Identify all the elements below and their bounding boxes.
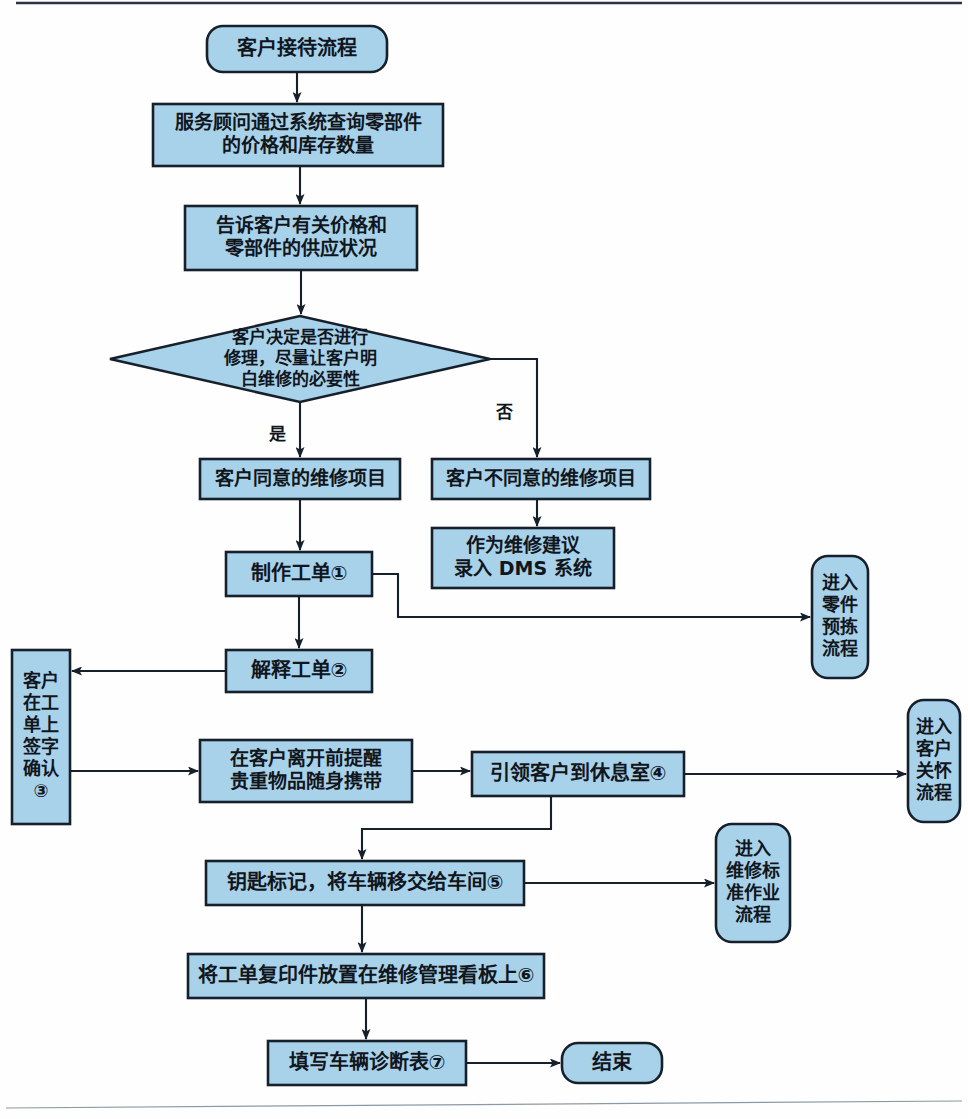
node-dms-advice[interactable]: 作为维修建议录入 DMS 系统 xyxy=(432,528,614,588)
node-label-decision-repair: 客户决定是否进行 xyxy=(231,327,368,347)
node-label-customer-sign: ③ xyxy=(33,780,48,801)
edge-labels: 是否 xyxy=(269,402,513,444)
nodes: 客户接待流程服务顾问通过系统查询零部件的价格和库存数量告诉客户有关价格和零部件的… xyxy=(12,26,960,1085)
node-label-tell-customer: 零部件的供应状况 xyxy=(224,237,377,259)
node-enter-customer-care[interactable]: 进入客户关怀流程 xyxy=(908,700,960,822)
node-tell-customer[interactable]: 告诉客户有关价格和零部件的供应状况 xyxy=(185,206,417,270)
node-key-tag-handover[interactable]: 钥匙标记，将车辆移交给车间⑤ xyxy=(206,861,524,905)
node-start[interactable]: 客户接待流程 xyxy=(207,26,387,72)
node-label-remind-valuables: 在客户离开前提醒 xyxy=(230,747,382,769)
bottom-rule xyxy=(6,1101,962,1108)
node-agree-items[interactable]: 客户同意的维修项目 xyxy=(200,459,400,499)
node-label-agree-items: 客户同意的维修项目 xyxy=(215,467,386,489)
node-disagree-items[interactable]: 客户不同意的维修项目 xyxy=(432,459,650,499)
node-label-query-parts: 的价格和库存数量 xyxy=(222,134,374,156)
node-customer-sign[interactable]: 客户在工单上签字确认③ xyxy=(12,650,70,824)
node-label-customer-sign: 客户 xyxy=(23,670,59,691)
node-label-create-workorder: 制作工单① xyxy=(251,561,348,585)
node-lead-lounge[interactable]: 引领客户到休息室④ xyxy=(472,752,684,796)
node-label-enter-customer-care: 进入 xyxy=(916,716,952,737)
connector-lead-to-key xyxy=(362,796,551,859)
node-enter-repair-standard[interactable]: 进入维修标准作业流程 xyxy=(716,824,790,942)
node-label-tell-customer: 告诉客户有关价格和 xyxy=(216,214,387,236)
node-label-enter-parts-picking: 零件 xyxy=(821,594,858,615)
node-query-parts[interactable]: 服务顾问通过系统查询零部件的价格和库存数量 xyxy=(153,104,443,166)
node-label-remind-valuables: 贵重物品随身携带 xyxy=(230,770,382,792)
node-remind-valuables[interactable]: 在客户离开前提醒贵重物品随身携带 xyxy=(200,740,412,802)
node-label-enter-repair-standard: 流程 xyxy=(735,904,771,925)
flowchart-canvas: 客户接待流程服务顾问通过系统查询零部件的价格和库存数量告诉客户有关价格和零部件的… xyxy=(0,0,968,1119)
node-label-enter-parts-picking: 预拣 xyxy=(822,616,858,637)
node-label-customer-sign: 签字 xyxy=(22,736,59,757)
node-label-enter-repair-standard: 维修标 xyxy=(726,860,780,881)
node-label-enter-repair-standard: 准作业 xyxy=(726,882,780,903)
flowchart-svg: 客户接待流程服务顾问通过系统查询零部件的价格和库存数量告诉客户有关价格和零部件的… xyxy=(0,0,968,1119)
node-label-enter-parts-picking: 流程 xyxy=(822,638,858,659)
node-label-enter-repair-standard: 进入 xyxy=(735,838,771,859)
node-label-customer-sign: 单上 xyxy=(23,714,59,735)
node-explain-workorder[interactable]: 解释工单② xyxy=(226,650,372,692)
node-end[interactable]: 结束 xyxy=(562,1043,662,1083)
node-label-start: 客户接待流程 xyxy=(236,36,357,60)
node-label-fill-diagnosis: 填写车辆诊断表⑦ xyxy=(289,1050,446,1074)
node-label-query-parts: 服务顾问通过系统查询零部件 xyxy=(175,111,422,133)
node-label-decision-repair: 白维修的必要性 xyxy=(241,369,360,389)
node-label-enter-customer-care: 流程 xyxy=(916,782,952,803)
node-label-key-tag-handover: 钥匙标记，将车辆移交给车间⑤ xyxy=(227,870,504,894)
node-label-end: 结束 xyxy=(592,1050,633,1074)
node-decision-repair[interactable]: 客户决定是否进行修理，尽量让客户明白维修的必要性 xyxy=(110,316,490,402)
node-label-enter-parts-picking: 进入 xyxy=(822,572,858,593)
node-enter-parts-picking[interactable]: 进入零件预拣流程 xyxy=(812,556,868,678)
node-label-dms-advice: 录入 DMS 系统 xyxy=(454,557,592,579)
node-label-enter-customer-care: 关怀 xyxy=(916,760,952,781)
node-label-disagree-items: 客户不同意的维修项目 xyxy=(446,467,636,489)
node-copy-to-board[interactable]: 将工单复印件放置在维修管理看板上⑥ xyxy=(188,954,544,998)
node-label-lead-lounge: 引领客户到休息室④ xyxy=(490,761,667,785)
node-label-customer-sign: 确认 xyxy=(23,758,60,779)
node-create-workorder[interactable]: 制作工单① xyxy=(226,552,372,596)
node-label-copy-to-board: 将工单复印件放置在维修管理看板上⑥ xyxy=(198,963,535,987)
node-label-explain-workorder: 解释工单② xyxy=(251,658,348,682)
node-label-customer-sign: 在工 xyxy=(23,692,59,713)
node-label-enter-customer-care: 客户 xyxy=(916,738,952,759)
edge-label-no: 否 xyxy=(495,402,513,422)
node-fill-diagnosis[interactable]: 填写车辆诊断表⑦ xyxy=(268,1041,466,1085)
node-label-decision-repair: 修理，尽量让客户明 xyxy=(223,348,377,368)
edge-label-yes: 是 xyxy=(269,424,286,444)
node-label-dms-advice: 作为维修建议 xyxy=(466,534,581,556)
